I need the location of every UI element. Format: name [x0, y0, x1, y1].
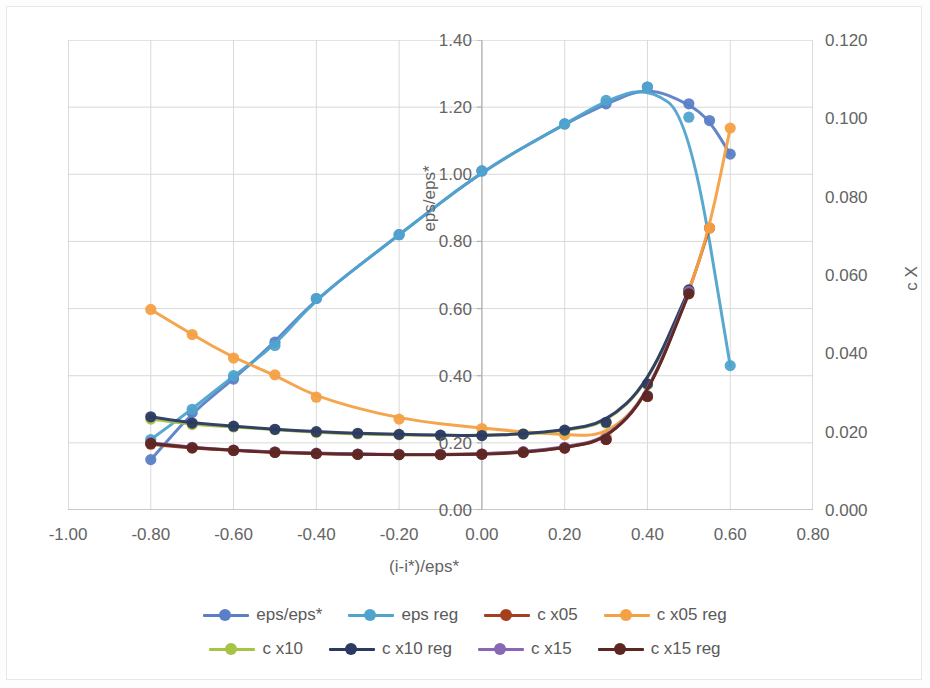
x-axis-tick-label: -0.80	[131, 526, 170, 543]
legend-dot-icon	[614, 643, 626, 655]
legend-label: c x10 reg	[382, 639, 452, 659]
y-axis-tick-label: 0.60	[439, 300, 472, 317]
y-axis-tick-label: 0.00	[439, 502, 472, 519]
x-axis-tick-label: 0.80	[796, 526, 829, 543]
y-axis-tick-label: 0.40	[439, 367, 472, 384]
secondary-y-axis-tick-label: 0.060	[825, 267, 868, 284]
x-axis-tick-label: -0.40	[297, 526, 336, 543]
legend-dot-icon	[364, 609, 376, 621]
legend-item[interactable]: c x10 reg	[329, 639, 452, 659]
secondary-y-axis-tick-label: 0.120	[825, 32, 868, 49]
x-axis-tick-label: -0.20	[380, 526, 419, 543]
x-axis-tick-label: -0.60	[214, 526, 253, 543]
legend-label: c x15	[531, 639, 572, 659]
legend-row-secondary: c x10c x10 regc x15c x15 reg	[0, 632, 930, 666]
legend-dot-icon	[494, 643, 506, 655]
secondary-y-axis-title: c X	[903, 266, 920, 291]
legend-dot-icon	[345, 643, 357, 655]
secondary-y-axis-tick-label: 0.020	[825, 423, 868, 440]
legend-item[interactable]: eps reg	[348, 605, 458, 625]
legend-dot-icon	[620, 609, 632, 621]
legend-label: c x05	[537, 605, 578, 625]
x-axis-tick-label: 0.40	[631, 526, 664, 543]
legend-dot-icon	[500, 609, 512, 621]
x-axis-tick-label: 0.20	[548, 526, 581, 543]
x-axis-tick-label: 0.60	[714, 526, 747, 543]
secondary-y-axis-tick-label: 0.000	[825, 502, 868, 519]
chart-legend: eps/eps*eps regc x05c x05 reg c x10c x10…	[0, 598, 930, 666]
x-axis-tick-label: 0.00	[465, 526, 498, 543]
legend-item[interactable]: c x15 reg	[598, 639, 721, 659]
legend-item[interactable]: c x05	[484, 605, 578, 625]
legend-dot-icon	[219, 609, 231, 621]
legend-item[interactable]: c x10	[209, 639, 303, 659]
legend-item[interactable]: eps/eps*	[203, 605, 322, 625]
legend-marker-icon	[348, 607, 394, 623]
chart-root: 0.000.200.400.600.801.001.201.400.0000.0…	[0, 0, 930, 688]
y-axis-tick-label: 1.00	[439, 166, 472, 183]
legend-marker-icon	[604, 607, 650, 623]
legend-label: c x15 reg	[651, 639, 721, 659]
secondary-y-axis-tick-label: 0.080	[825, 188, 868, 205]
value-axis-spines	[477, 40, 813, 510]
secondary-y-axis-tick-label: 0.100	[825, 110, 868, 127]
legend-marker-icon	[209, 641, 255, 657]
y-axis-tick-label: 0.80	[439, 233, 472, 250]
legend-label: c x05 reg	[657, 605, 727, 625]
y-axis-tick-label: 0.20	[439, 434, 472, 451]
legend-marker-icon	[329, 641, 375, 657]
legend-marker-icon	[203, 607, 249, 623]
legend-row-primary: eps/eps*eps regc x05c x05 reg	[0, 598, 930, 632]
legend-label: c x10	[262, 639, 303, 659]
legend-dot-icon	[225, 643, 237, 655]
legend-item[interactable]: c x05 reg	[604, 605, 727, 625]
x-axis-title: (i-i*)/eps*	[389, 558, 459, 575]
legend-marker-icon	[478, 641, 524, 657]
legend-label: eps/eps*	[256, 605, 322, 625]
x-axis-tick-label: -1.00	[49, 526, 88, 543]
legend-marker-icon	[598, 641, 644, 657]
legend-marker-icon	[484, 607, 530, 623]
series-c-x10-reg	[145, 284, 694, 441]
y-axis-title: eps/eps*	[420, 165, 437, 231]
legend-item[interactable]: c x15	[478, 639, 572, 659]
legend-label: eps reg	[401, 605, 458, 625]
y-axis-tick-label: 1.40	[439, 32, 472, 49]
secondary-y-axis-tick-label: 0.040	[825, 345, 868, 362]
y-axis-tick-label: 1.20	[439, 99, 472, 116]
